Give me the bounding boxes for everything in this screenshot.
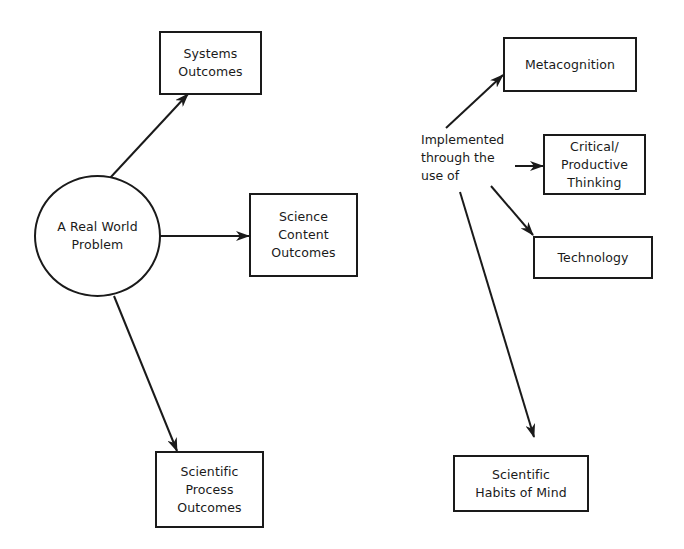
scientific-process-outcomes-label: Scientific Process Outcomes — [177, 463, 241, 517]
metacognition-label: Metacognition — [525, 56, 615, 74]
technology-box: Technology — [533, 236, 653, 279]
real-world-problem-label: A Real World Problem — [57, 218, 137, 254]
technology-label: Technology — [557, 249, 628, 267]
scientific-process-outcomes-box: Scientific Process Outcomes — [155, 451, 264, 528]
arrow-to-systems-outcomes — [110, 94, 188, 178]
arrow-to-habits-of-mind — [460, 192, 534, 437]
arrow-to-metacognition — [446, 75, 503, 128]
implementation-label: Implemented through the use of — [421, 131, 504, 185]
science-content-outcomes-box: Science Content Outcomes — [249, 193, 358, 277]
arrow-to-technology — [491, 186, 533, 235]
arrow-to-scientific-process-outcomes — [114, 296, 177, 451]
critical-thinking-label: Critical/ Productive Thinking — [561, 138, 628, 192]
real-world-problem-node: A Real World Problem — [34, 175, 161, 297]
science-content-outcomes-label: Science Content Outcomes — [271, 208, 335, 262]
metacognition-box: Metacognition — [503, 37, 637, 92]
habits-of-mind-box: Scientific Habits of Mind — [453, 455, 589, 512]
systems-outcomes-box: Systems Outcomes — [159, 31, 262, 95]
habits-of-mind-label: Scientific Habits of Mind — [475, 466, 566, 502]
systems-outcomes-label: Systems Outcomes — [178, 45, 242, 81]
critical-thinking-box: Critical/ Productive Thinking — [543, 134, 646, 195]
